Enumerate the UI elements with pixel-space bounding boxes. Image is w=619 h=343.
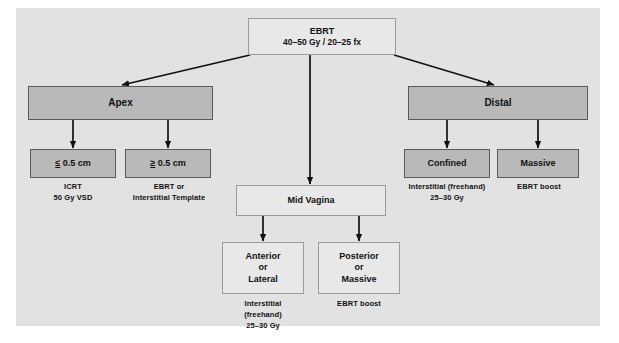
caption-apex-small-line2: 50 Gy VSD	[24, 193, 122, 204]
caption-anterior-lateral: Interstitial (freehand) 25–30 Gy	[220, 299, 306, 332]
caption-posterior-massive: EBRT boost	[316, 299, 402, 310]
node-distal[interactable]: Distal	[408, 86, 588, 120]
node-posterior-massive-line1: Posterior	[339, 251, 379, 262]
node-apex-large-value: 0.5 cm	[155, 158, 186, 168]
node-anterior-lateral-line1: Anterior	[245, 251, 280, 262]
node-apex-small-label: ≤ 0.5 cm	[55, 158, 90, 169]
node-apex-large-label: ≥ 0.5 cm	[150, 158, 185, 169]
caption-massive-line1: EBRT boost	[499, 182, 579, 193]
node-massive-label: Massive	[520, 158, 555, 169]
caption-apex-large-line2: Interstitial Template	[119, 193, 219, 204]
caption-confined-line1: Interstitial (freehand)	[394, 182, 500, 193]
caption-apex-small: ICRT 50 Gy VSD	[24, 182, 122, 204]
node-distal-label: Distal	[484, 97, 511, 110]
node-ebrt-root-line1: EBRT	[310, 26, 335, 37]
caption-confined: Interstitial (freehand) 25–30 Gy	[394, 182, 500, 204]
node-ebrt-root-line2: 40–50 Gy / 20–25 fx	[283, 37, 361, 48]
node-ebrt-root[interactable]: EBRT 40–50 Gy / 20–25 fx	[248, 18, 396, 55]
node-confined-label: Confined	[428, 158, 467, 169]
node-apex-small-value: 0.5 cm	[60, 158, 91, 168]
caption-posterior-massive-line1: EBRT boost	[316, 299, 402, 310]
arrow-root-to-apex	[122, 55, 250, 85]
arrow-root-to-distal	[394, 55, 494, 85]
node-apex-small[interactable]: ≤ 0.5 cm	[30, 149, 116, 178]
node-mid-vagina[interactable]: Mid Vagina	[236, 185, 386, 216]
node-mid-vagina-label: Mid Vagina	[287, 195, 334, 206]
caption-massive: EBRT boost	[499, 182, 579, 193]
caption-anterior-lateral-line3: 25–30 Gy	[220, 321, 306, 332]
node-anterior-lateral-line3: Lateral	[248, 274, 278, 285]
node-posterior-massive-line2: or	[355, 262, 364, 273]
node-posterior-massive-line3: Massive	[341, 274, 376, 285]
node-anterior-lateral-line2: or	[259, 262, 268, 273]
node-confined[interactable]: Confined	[404, 149, 490, 178]
diagram-panel: EBRT 40–50 Gy / 20–25 fx Apex Mid Vagina…	[16, 8, 600, 326]
node-apex-label: Apex	[108, 97, 132, 110]
caption-apex-large-line1: EBRT or	[119, 182, 219, 193]
node-apex[interactable]: Apex	[28, 86, 213, 120]
node-anterior-lateral[interactable]: Anterior or Lateral	[222, 242, 304, 294]
caption-anterior-lateral-line1: Interstitial	[220, 299, 306, 310]
node-massive[interactable]: Massive	[497, 149, 579, 178]
caption-apex-large: EBRT or Interstitial Template	[119, 182, 219, 204]
caption-apex-small-line1: ICRT	[24, 182, 122, 193]
node-apex-large[interactable]: ≥ 0.5 cm	[125, 149, 211, 178]
caption-confined-line2: 25–30 Gy	[394, 193, 500, 204]
node-posterior-massive[interactable]: Posterior or Massive	[318, 242, 400, 294]
caption-anterior-lateral-line2: (freehand)	[220, 310, 306, 321]
